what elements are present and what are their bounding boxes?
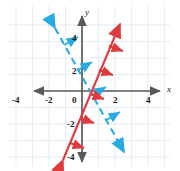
ytick-label-neg4: -4 <box>67 153 75 162</box>
xtick-label-4: 4 <box>146 96 151 105</box>
y-axis-label: y <box>85 8 89 17</box>
coordinate-plane <box>0 0 180 171</box>
xtick-label-neg2: -2 <box>45 96 53 105</box>
x-axis-label: x <box>167 85 171 94</box>
ytick-label-2: 2 <box>72 67 77 76</box>
ytick-label-4: 4 <box>72 34 77 43</box>
origin-label: 0 <box>72 96 77 105</box>
xtick-label-2: 2 <box>113 96 118 105</box>
xtick-label-neg4: -4 <box>12 96 20 105</box>
grid-lines <box>8 6 170 166</box>
graph-figure: -4 -2 0 2 4 4 2 -2 -4 x y <box>0 0 180 171</box>
ytick-label-neg2: -2 <box>67 120 75 129</box>
red-solid-line <box>63 24 123 160</box>
